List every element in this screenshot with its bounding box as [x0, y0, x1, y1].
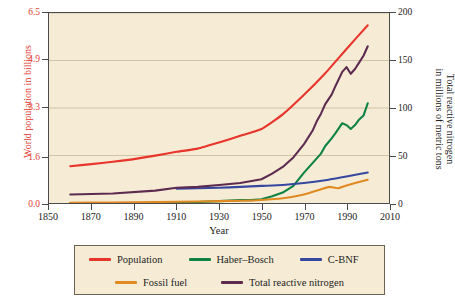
y-axis-right-title-line1: Total reactive nitrogen: [445, 29, 455, 209]
y-axis-right-tick-label: 50: [398, 151, 438, 161]
legend-item[interactable]: C-BNF: [300, 254, 359, 265]
legend-color-swatch: [89, 258, 111, 261]
x-axis-tick: [219, 204, 220, 210]
legend-label: Haber–Bosch: [217, 254, 274, 265]
legend-label: Total reactive nitrogen: [249, 277, 344, 288]
x-axis-tick-label: 1930: [197, 211, 241, 222]
y-axis-right-tick: [390, 60, 396, 61]
x-axis-tick: [134, 204, 135, 210]
series-line-population: [70, 25, 368, 166]
legend-label: C-BNF: [328, 254, 359, 265]
x-axis-tick-label: 1970: [283, 211, 327, 222]
y-axis-left-tick-label: 4.9: [0, 54, 40, 64]
legend-label: Population: [117, 254, 163, 265]
y-axis-right-tick-label: 200: [398, 7, 438, 17]
legend-color-swatch: [115, 281, 137, 284]
plot-canvas: [49, 13, 389, 203]
chart-legend: PopulationHaber–BoschC-BNF Fossil fuelTo…: [74, 245, 385, 295]
legend-color-swatch: [189, 258, 211, 261]
series-line-total-reactive-nitrogen: [70, 46, 368, 194]
x-axis-tick: [91, 204, 92, 210]
x-axis-tick-label: 1950: [240, 211, 284, 222]
x-axis-tick: [262, 204, 263, 210]
legend-row-2: Fossil fuelTotal reactive nitrogen: [75, 271, 384, 294]
x-axis-tick: [390, 204, 391, 210]
x-axis-title: Year: [48, 225, 390, 236]
y-axis-right-title: Total reactive nitrogen in millions of m…: [434, 29, 455, 209]
x-axis-tick-label: 1910: [154, 211, 198, 222]
legend-color-swatch: [300, 258, 322, 261]
series-line-fossil-fuel: [70, 180, 368, 203]
legend-item[interactable]: Haber–Bosch: [189, 254, 274, 265]
y-axis-right-tick-label: 0: [398, 199, 438, 209]
y-axis-right-tick-label: 150: [398, 55, 438, 65]
y-axis-right-tick-label: 100: [398, 103, 438, 113]
x-axis-tick-label: 1870: [69, 211, 113, 222]
legend-item[interactable]: Total reactive nitrogen: [221, 277, 344, 288]
y-axis-left-tick-label: 0.0: [0, 199, 40, 209]
y-axis-right-tick: [390, 108, 396, 109]
y-axis-right-tick: [390, 156, 396, 157]
chart-figure: World population in billions 0.01.63.34.…: [0, 0, 455, 303]
y-axis-left-tick-label: 1.6: [0, 152, 40, 162]
series-lines: [70, 25, 368, 203]
legend-row-1: PopulationHaber–BoschC-BNF: [75, 248, 384, 271]
x-axis-tick-label: 1890: [112, 211, 156, 222]
x-axis-tick-label: 1990: [325, 211, 369, 222]
x-axis-tick-label: 1850: [26, 211, 70, 222]
legend-label: Fossil fuel: [143, 277, 187, 288]
y-axis-left-tick-label: 6.5: [0, 7, 40, 17]
legend-item[interactable]: Fossil fuel: [115, 277, 187, 288]
legend-color-swatch: [221, 281, 243, 284]
x-axis-tick-label: 2010: [368, 211, 412, 222]
x-axis-tick: [48, 204, 49, 210]
x-axis-tick: [347, 204, 348, 210]
x-axis-tick: [305, 204, 306, 210]
y-axis-right-tick: [390, 12, 396, 13]
x-axis-tick: [176, 204, 177, 210]
gridlines: [49, 13, 389, 156]
y-axis-left-tick-label: 3.3: [0, 102, 40, 112]
legend-item[interactable]: Population: [89, 254, 163, 265]
plot-area: [48, 12, 390, 204]
y-axis-right-title-line2: in millions of metric tons: [434, 29, 445, 209]
